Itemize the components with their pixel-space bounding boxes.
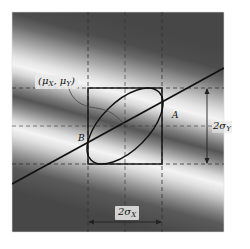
height-label: 2σY — [212, 121, 232, 133]
point-b-label: B — [78, 134, 85, 143]
mean-label: (μX, μY) — [35, 75, 78, 89]
bivariate-normal-figure: (μX, μY) A B 2σY 2σX — [0, 0, 250, 249]
point-a-label: A — [172, 111, 179, 120]
density-bands — [12, 12, 224, 232]
width-label: 2σX — [115, 206, 139, 220]
